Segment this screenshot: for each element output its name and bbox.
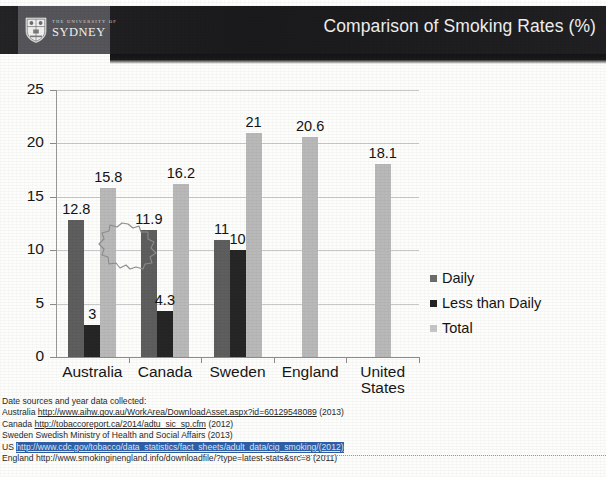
y-axis-labels: 0510152025 [0,90,50,357]
source-link[interactable]: http://www.aihw.gov.au/WorkArea/Download… [38,407,317,417]
bar-value-label: 20.6 [296,118,324,134]
source-line: Canada http://tobaccoreport.ca/2014/adtu… [2,419,606,430]
bar [375,164,391,357]
y-axis-tick-label: 0 [35,347,44,365]
source-country: England [2,453,36,463]
bar [302,137,318,357]
bar-value-label: 11.9 [135,211,162,227]
legend-label: Total [442,320,473,336]
bar-value-label: 11 [214,221,229,237]
bar [100,188,116,357]
sydney-crest-shield-icon [25,17,47,43]
page-title: Comparison of Smoking Rates (%) [323,16,596,37]
source-line: Australia http://www.aihw.gov.au/WorkAre… [2,407,606,418]
y-axis-tick-label: 15 [27,187,44,205]
logo-university-line: THE UNIVERSITY OF [52,20,124,25]
legend-item: Less than Daily [430,295,580,311]
source-country: Canada [2,419,35,429]
source-year: (2012) [206,419,233,429]
y-axis-tick [50,143,56,144]
legend-swatch-icon [430,275,437,282]
y-axis-tick [50,357,56,358]
bar [68,220,84,357]
y-axis-tick-label: 25 [27,80,44,98]
x-axis-tick [346,357,347,363]
source-line: Sweden Swedish Ministry of Health and So… [2,430,606,441]
chart-legend: DailyLess than DailyTotal [430,270,580,345]
legend-swatch-icon [430,300,437,307]
bar-value-label: 3 [88,306,96,322]
x-axis-tick [129,357,130,363]
source-country: Sweden [2,430,35,440]
bar-value-label: 15.8 [94,169,122,185]
x-axis-tick [274,357,275,363]
bar-value-label: 21 [245,114,261,130]
bar [157,311,173,357]
sources-heading: Date sources and year data collected: [2,396,606,407]
legend-item: Daily [430,270,580,286]
x-axis-category-label: England [282,364,339,380]
bar-chart: 0510152025 DailyLess than DailyTotal 12.… [0,64,606,374]
source-line: US http://www.cdc.gov/tobacco/data_stati… [2,442,606,453]
bar [214,240,230,357]
bar-value-label: 12.8 [62,201,90,217]
source-reference: Swedish Ministry of Health and Social Af… [35,430,205,440]
x-axis-category-label: Sweden [209,364,265,380]
legend-item: Total [430,320,580,336]
university-logo-text: THE UNIVERSITY OF SYDNEY [52,21,106,39]
source-country: Australia [2,407,38,417]
source-reference: http://www.smokinginengland.info/downloa… [36,453,311,463]
x-axis-tick [201,357,202,363]
y-axis-tick-label: 5 [35,294,44,312]
source-year: (2013) [205,430,232,440]
bar [230,250,246,357]
y-axis-tick [50,197,56,198]
x-axis-category-label: Australia [62,364,122,380]
source-link[interactable]: http://tobaccoreport.ca/2014/adtu_sic_sp… [35,419,207,429]
x-axis-line [56,357,419,358]
university-logo-block: THE UNIVERSITY OF SYDNEY [18,6,110,54]
source-dotted-rule [300,455,606,456]
bar [84,325,100,357]
source-year: (2013) [317,407,344,417]
bar [173,184,189,357]
x-axis-category-label: Canada [138,364,192,380]
logo-university-name: SYDNEY [52,26,106,39]
y-axis-tick-label: 10 [27,240,44,258]
bar-series-container [56,90,419,357]
y-axis-tick [50,304,56,305]
bar-value-label: 10 [229,231,245,247]
bar [246,133,262,357]
bar-value-label: 18.1 [369,145,397,161]
y-axis-tick [50,250,56,251]
header-band-gradient [110,54,606,64]
bar-value-label: 16.2 [167,165,195,181]
bar-value-label: 4.3 [155,292,175,308]
source-year: (2012) [319,442,344,453]
y-axis-tick [50,90,56,91]
legend-swatch-icon [430,325,437,332]
source-country: US [2,442,16,452]
legend-label: Daily [442,270,474,286]
x-axis-category-label: UnitedStates [360,364,405,397]
legend-label: Less than Daily [442,295,541,311]
x-axis-tick [419,357,420,363]
y-axis-tick-label: 20 [27,133,44,151]
source-link[interactable]: http://www.cdc.gov/tobacco/data_statisti… [16,442,318,453]
